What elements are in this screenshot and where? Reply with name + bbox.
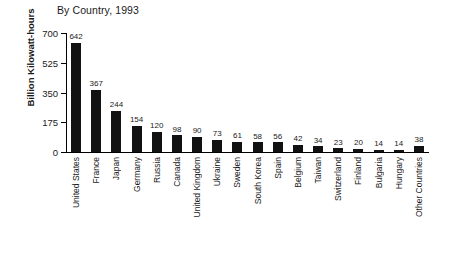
bar-group: 56 xyxy=(268,33,288,152)
bar xyxy=(353,149,363,152)
bar xyxy=(172,135,182,152)
y-axis-title: Billion Kilowatt-hours xyxy=(25,0,36,118)
bar-group: 154 xyxy=(127,33,147,152)
y-axis-tick-label: 350 xyxy=(42,87,58,98)
x-axis-category-label: Canada xyxy=(172,157,182,187)
bar-value-label: 56 xyxy=(273,132,282,141)
y-axis-tick-label: 175 xyxy=(42,117,58,128)
bar xyxy=(212,140,222,152)
bar-value-label: 20 xyxy=(354,138,363,147)
bar xyxy=(273,142,283,152)
bar xyxy=(111,111,121,152)
bar xyxy=(414,146,424,152)
x-axis-category-label: France xyxy=(91,157,101,183)
x-axis-category-label: Finland xyxy=(353,157,363,185)
bar-value-label: 23 xyxy=(334,138,343,147)
bar xyxy=(313,146,323,152)
bar-group: 58 xyxy=(248,33,268,152)
bar-group: 90 xyxy=(187,33,207,152)
y-axis-tick-label: 700 xyxy=(42,28,58,39)
bar-value-label: 367 xyxy=(90,79,103,88)
bar xyxy=(132,126,142,152)
x-axis-category-label: Germany xyxy=(132,157,142,192)
bar-group: 23 xyxy=(328,33,348,152)
bar-value-label: 98 xyxy=(172,125,181,134)
bar-group: 642 xyxy=(66,33,86,152)
bar-value-label: 90 xyxy=(193,126,202,135)
bar-group: 367 xyxy=(86,33,106,152)
bar-group: 14 xyxy=(369,33,389,152)
x-axis-line xyxy=(66,152,429,153)
bar-value-label: 73 xyxy=(213,129,222,138)
bar-group: 34 xyxy=(308,33,328,152)
bar-value-label: 642 xyxy=(69,32,82,41)
bar-group: 38 xyxy=(409,33,429,152)
bar xyxy=(333,148,343,152)
bar xyxy=(293,145,303,152)
bar-value-label: 14 xyxy=(374,139,383,148)
bar xyxy=(374,150,384,152)
bar-value-label: 154 xyxy=(130,115,143,124)
bar-value-label: 42 xyxy=(293,134,302,143)
bar-group: 20 xyxy=(348,33,368,152)
bar-group: 98 xyxy=(167,33,187,152)
bar-value-label: 61 xyxy=(233,131,242,140)
bar-group: 42 xyxy=(288,33,308,152)
y-axis-tick xyxy=(61,152,66,153)
x-axis-category-label: Hungary xyxy=(394,157,404,189)
y-axis-tick-label: 0 xyxy=(53,147,58,158)
x-axis-category-label: Taiwan xyxy=(313,157,323,183)
bar xyxy=(91,90,101,152)
bar-group: 244 xyxy=(106,33,126,152)
bar-group: 14 xyxy=(389,33,409,152)
plot-area: 0175350525700642367244154120989073615856… xyxy=(66,33,429,152)
bar xyxy=(232,142,242,152)
bar-group: 61 xyxy=(227,33,247,152)
chart-page: By Country, 1993 Billion Kilowatt-hours … xyxy=(0,0,450,272)
x-axis-category-label: Sweden xyxy=(232,157,242,188)
x-axis-category-label: Other Countries xyxy=(414,157,424,217)
bar-group: 73 xyxy=(207,33,227,152)
x-axis-category-label: Ukraine xyxy=(212,157,222,186)
y-axis-tick-label: 525 xyxy=(42,57,58,68)
bar xyxy=(192,137,202,152)
bar-value-label: 38 xyxy=(414,135,423,144)
x-axis-category-label: Belgium xyxy=(293,157,303,188)
bar xyxy=(253,142,263,152)
x-axis-category-label: Switzerland xyxy=(333,157,343,201)
bar-group: 120 xyxy=(147,33,167,152)
x-axis-category-label: South Korea xyxy=(253,157,263,204)
bar xyxy=(394,150,404,152)
bar-value-label: 14 xyxy=(394,139,403,148)
bar-value-label: 244 xyxy=(110,100,123,109)
x-axis-category-label: Bulgaria xyxy=(374,157,384,188)
x-axis-category-label: Russia xyxy=(152,157,162,183)
x-axis-category-label: Spain xyxy=(273,157,283,179)
x-axis-category-label: United States xyxy=(71,157,81,208)
bar xyxy=(152,132,162,152)
x-axis-category-label: United Kingdom xyxy=(192,157,202,217)
bar-value-label: 34 xyxy=(314,136,323,145)
bar-value-label: 58 xyxy=(253,132,262,141)
bar-value-label: 120 xyxy=(150,121,163,130)
chart-title: By Country, 1993 xyxy=(57,4,139,16)
x-axis-category-label: Japan xyxy=(111,157,121,180)
bar xyxy=(71,43,81,152)
